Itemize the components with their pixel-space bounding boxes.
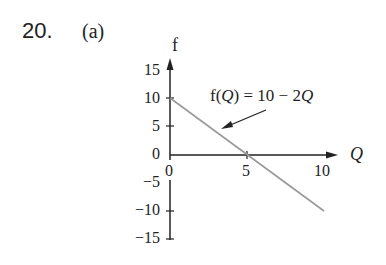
x-tick-label: 10 (314, 162, 330, 180)
y-tick-label: 15 (144, 61, 160, 79)
y-tick-label: −15 (135, 229, 160, 247)
x-axis-arrow-icon (326, 152, 338, 159)
x-tick-label: 0 (165, 162, 173, 180)
annotation-arrow (228, 110, 266, 126)
y-tick-label: 0 (152, 145, 160, 163)
annotation-arrowhead-icon (221, 121, 233, 129)
y-tick-label: 10 (144, 89, 160, 107)
x-tick-label: 5 (242, 162, 250, 180)
x-axis-label: Q (350, 144, 363, 165)
y-tick-label: 5 (152, 117, 160, 135)
chart-canvas (0, 0, 386, 265)
y-axis-label: f (172, 35, 178, 56)
y-tick-label: −10 (135, 201, 160, 219)
function-annotation: f(Q) = 10 − 2Q (210, 86, 313, 106)
y-tick-label: −5 (143, 173, 160, 191)
y-axis-arrow-icon (167, 58, 174, 70)
